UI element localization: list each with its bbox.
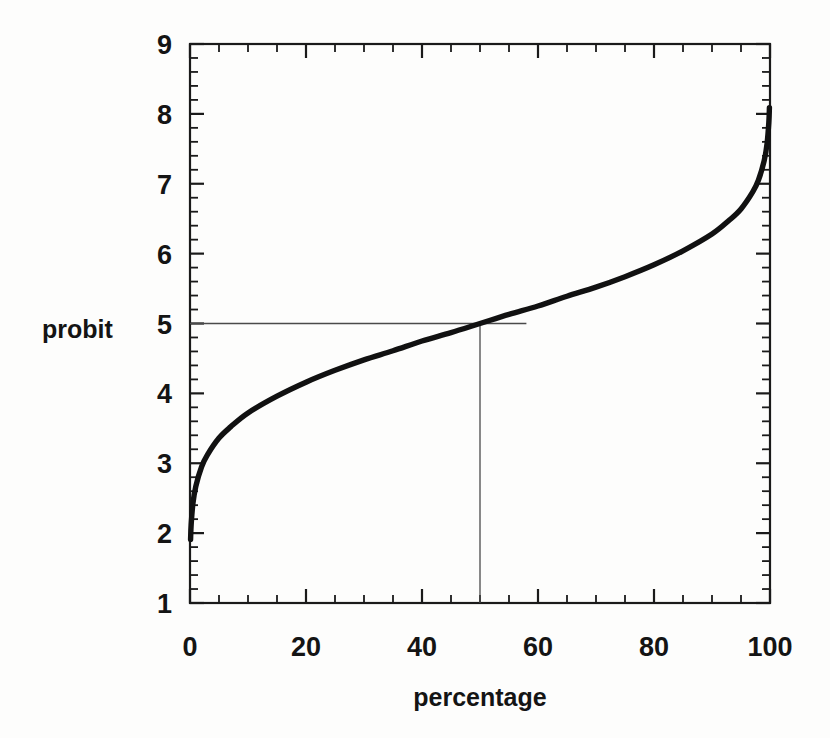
probit-chart: 020406080100 123456789 probit percentage — [0, 0, 830, 738]
x-tick-label: 40 — [407, 632, 437, 662]
x-tick-label: 60 — [523, 632, 553, 662]
x-tick-label: 100 — [747, 632, 792, 662]
y-tick-label: 8 — [157, 100, 172, 130]
y-tick-label: 6 — [157, 240, 172, 270]
y-tick-label: 5 — [157, 310, 172, 340]
y-tick-label: 9 — [157, 30, 172, 60]
x-tick-label: 80 — [639, 632, 669, 662]
y-tick-label: 2 — [157, 519, 172, 549]
x-tick-label: 20 — [291, 632, 321, 662]
x-axis-title: percentage — [413, 683, 546, 711]
x-tick-labels: 020406080100 — [182, 632, 792, 662]
y-tick-labels: 123456789 — [157, 30, 172, 619]
x-tick-label: 0 — [182, 632, 197, 662]
reference-lines — [190, 324, 526, 604]
y-tick-label: 3 — [157, 449, 172, 479]
y-tick-label: 4 — [157, 379, 172, 409]
y-tick-label: 7 — [157, 170, 172, 200]
y-tick-label: 1 — [157, 589, 172, 619]
y-axis-title: probit — [42, 315, 113, 343]
figure-page: 020406080100 123456789 probit percentage — [0, 0, 830, 738]
